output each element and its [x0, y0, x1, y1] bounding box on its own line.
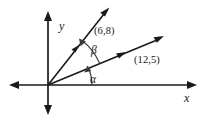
x-axis-label: x	[184, 92, 189, 104]
angle-alpha-label: α	[90, 74, 96, 86]
vector-12-5-mid-arrowhead	[116, 52, 126, 59]
y-axis-down-arrowhead	[44, 105, 52, 115]
x-axis-left-arrowhead	[9, 81, 19, 89]
vector-6-8-group	[48, 8, 110, 86]
vector-6-8-label: (6,8)	[94, 26, 115, 37]
x-axis-right-arrowhead	[187, 81, 197, 89]
vector-angle-figure: y x (6,8) (12,5) β α	[0, 0, 205, 119]
vector-6-8-tip-arrowhead	[100, 8, 109, 17]
y-axis-label: y	[59, 20, 64, 32]
figure-canvas	[0, 0, 205, 119]
angle-beta-label: β	[91, 45, 97, 57]
vector-12-5-tip-arrowhead	[154, 36, 165, 43]
y-axis-up-arrowhead	[44, 11, 52, 21]
vector-6-8-mid-arrowhead	[72, 45, 80, 53]
vector-12-5-label: (12,5)	[134, 55, 160, 66]
